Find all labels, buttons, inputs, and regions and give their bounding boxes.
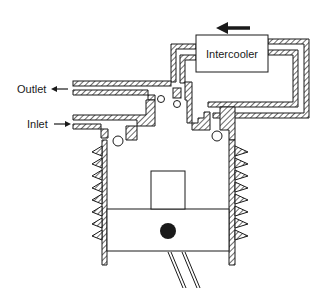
valve-ball-outlet: [158, 96, 165, 103]
piston-crown-block: [151, 171, 185, 209]
engine-diagram: [0, 0, 321, 303]
valve-ball-inlet: [113, 136, 123, 146]
flow-arrow-icon: [216, 22, 250, 34]
inlet-label: Inlet: [27, 118, 48, 130]
valve-ball-transfer: [212, 131, 222, 141]
connecting-rod: [168, 252, 200, 288]
piston-pin: [160, 223, 176, 239]
inlet-arrow-icon: [54, 121, 71, 127]
cylinder-left-wall: [92, 140, 107, 265]
outlet-arrow-icon: [51, 86, 68, 92]
outlet-label: Outlet: [17, 83, 46, 95]
cylinder-right-wall: [229, 140, 248, 265]
valve-ball-center: [174, 101, 181, 108]
outlet-duct: [73, 81, 171, 100]
intercooler-label: Intercooler: [196, 48, 268, 60]
inlet-duct: [73, 100, 155, 138]
